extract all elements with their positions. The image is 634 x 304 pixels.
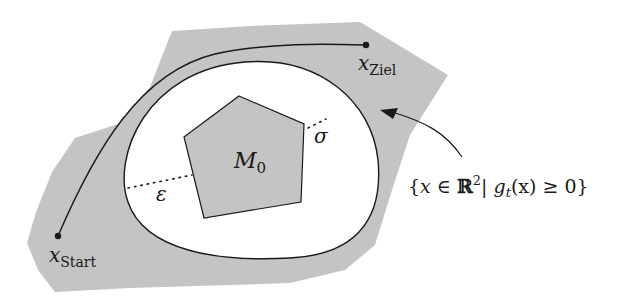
goal-point (363, 42, 369, 48)
sigma-label: σ (314, 124, 329, 148)
diagram-canvas: M0 ε σ xStart xZiel {x ∈ ℝ2| gt(x) ≥ 0} (0, 0, 634, 304)
region-set-label: {x ∈ ℝ2| gt(x) ≥ 0} (408, 173, 589, 200)
start-point (55, 233, 61, 239)
epsilon-label: ε (156, 182, 167, 206)
